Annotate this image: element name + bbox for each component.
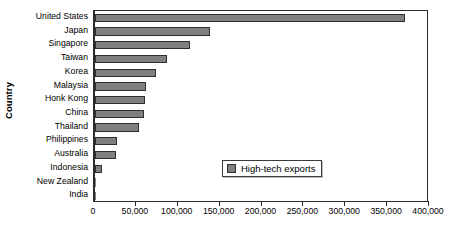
category-label: Korea <box>65 65 88 79</box>
category-axis-labels: United StatesJapanSingaporeTaiwanKoreaMa… <box>16 10 91 202</box>
bar <box>95 165 102 173</box>
category-label: New Zealand <box>37 175 88 189</box>
category-label: India <box>69 188 88 202</box>
category-label: Australia <box>54 147 88 161</box>
category-label: Philippines <box>46 133 88 147</box>
bar <box>95 178 96 186</box>
x-axis-tick-labels: 050,000100,000150,000200,000250,000300,0… <box>0 206 457 220</box>
bar <box>95 110 144 118</box>
x-axis-tick-label: 0 <box>91 206 96 216</box>
bar <box>95 14 405 22</box>
bar <box>95 123 139 131</box>
bar-chart: Country United StatesJapanSingaporeTaiwa… <box>0 0 457 237</box>
bar <box>95 69 156 77</box>
x-axis-tick-label: 50,000 <box>122 206 149 216</box>
bar <box>95 137 117 145</box>
x-axis-tick-label: 250,000 <box>287 206 318 216</box>
category-label: Japan <box>64 24 88 38</box>
x-axis-tick-label: 150,000 <box>203 206 234 216</box>
bar <box>95 96 145 104</box>
chart-legend: High-tech exports <box>222 160 322 177</box>
y-axis-title-label: Country <box>4 81 15 118</box>
category-label: Taiwan <box>61 51 88 65</box>
x-axis-tick-label: 100,000 <box>161 206 192 216</box>
legend-entry-label: High-tech exports <box>241 163 315 174</box>
category-label: Thailand <box>55 120 88 134</box>
bar <box>95 55 167 63</box>
x-axis-tick-label: 300,000 <box>329 206 360 216</box>
category-label: Honk Kong <box>45 92 88 106</box>
bar <box>95 82 146 90</box>
x-axis-tick-label: 200,000 <box>245 206 276 216</box>
category-label: Singapore <box>48 37 88 51</box>
x-axis-tick-label: 400,000 <box>412 206 443 216</box>
x-axis-tick-label: 350,000 <box>370 206 401 216</box>
bar <box>95 151 116 159</box>
category-label: China <box>65 106 88 120</box>
category-label: Malaysia <box>54 79 88 93</box>
category-label: United States <box>36 10 88 24</box>
legend-swatch-icon <box>227 164 236 173</box>
bar <box>95 41 190 49</box>
bar <box>95 27 210 35</box>
category-label: Indonesia <box>50 161 88 175</box>
